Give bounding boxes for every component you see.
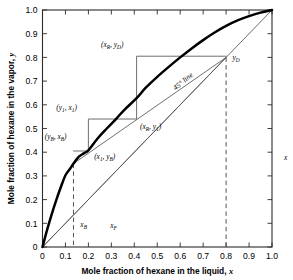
annotation-yB_xB: (yB, xB) [45,132,67,142]
x-tick-label: 0.1 [59,251,71,261]
y-tick-label: 0.5 [26,124,38,134]
annotation-x1_yB: (x1, yB) [94,152,116,162]
y-axis-title: Mole fraction of hexane in the vapor, y [6,53,16,205]
y-tick-label: 0.8 [26,53,38,63]
mccabe-thiele-chart: 00.10.20.30.40.50.60.70.80.91.0 00.10.20… [0,0,293,280]
annotation-y1_x1: (y1, x1) [56,103,77,113]
y-tick-label: 0.7 [26,76,38,86]
chart-root: 00.10.20.30.40.50.60.70.80.91.0 00.10.20… [0,0,293,280]
x-tick-label: 0.5 [151,251,163,261]
x-axis-title: Mole fraction of hexane in the liquid, x [81,266,233,276]
svg-text:Mole fraction of hexane in the: Mole fraction of hexane in the vapor, y [6,53,16,205]
y-tick-label: 0.6 [26,100,38,110]
margin-artifact-glyph: x [283,153,288,162]
x-tick-label: 0.7 [197,251,209,261]
x-tick-label: 0 [40,251,45,261]
y-tick-label: 0.3 [26,171,38,181]
y-tick-label: 1.0 [26,5,38,15]
y-tick-label: 0.9 [26,29,38,39]
x-tick-label: 0.9 [243,251,255,261]
x-tick-label: 0.8 [220,251,232,261]
x-tick-label: 0.2 [82,251,94,261]
y-tick-label: 0.1 [26,219,38,229]
x-tick-label: 0.3 [105,251,117,261]
y-tick-label: 0 [33,242,38,252]
x-tick-label: 0.6 [174,251,186,261]
annotation-xR_yD: (xR, yD) [101,40,124,50]
x-tick-label: 0.4 [128,251,140,261]
svg-text:Mole fraction of hexane in the: Mole fraction of hexane in the liquid, x [81,266,233,276]
x-tick-label: 1.0 [266,251,278,261]
annotation-xR_y1: (xR, y1) [140,122,162,132]
y-tick-label: 0.2 [26,195,38,205]
y-tick-label: 0.4 [26,147,38,157]
